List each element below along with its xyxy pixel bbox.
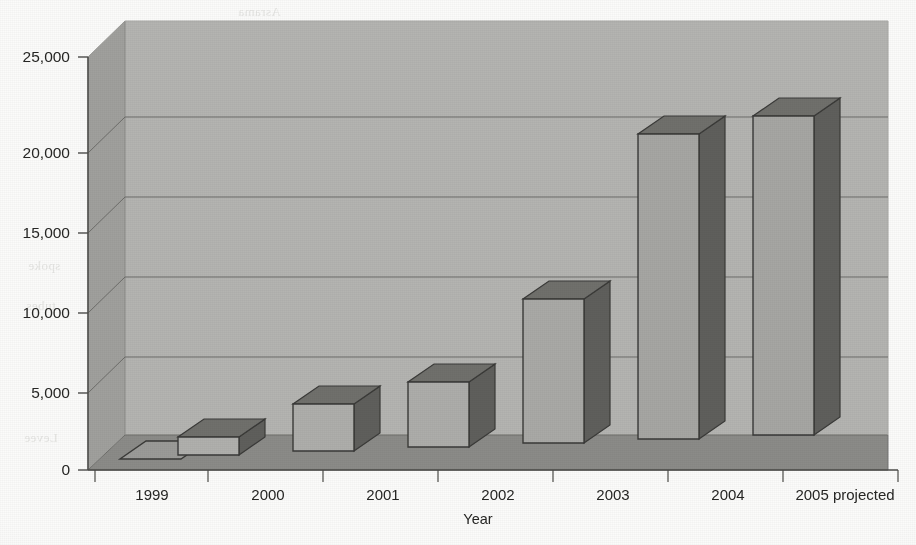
bar-2004-front: [638, 134, 699, 439]
bar-2002[interactable]: [408, 364, 495, 447]
y-label-20000: 20,000: [23, 144, 71, 161]
y-label-0: 0: [61, 461, 70, 478]
plot-side-wall: [88, 21, 125, 470]
x-label-2003: 2003: [596, 486, 629, 503]
x-label-1999: 1999: [135, 486, 168, 503]
chart-canvas: spoke tubes Levee Asrama: [0, 0, 916, 545]
x-label-2002: 2002: [481, 486, 514, 503]
y-label-5000: 5,000: [31, 384, 70, 401]
x-label-2001: 2001: [366, 486, 399, 503]
bar-2004[interactable]: [638, 116, 725, 439]
bar-2002-front: [408, 382, 469, 447]
bar-2005-side: [814, 98, 840, 435]
bar-2003-side: [584, 281, 610, 443]
bar-2000-front: [178, 437, 239, 455]
y-label-10000: 10,000: [23, 304, 71, 321]
x-label-2004: 2004: [711, 486, 744, 503]
bar-2004-side: [699, 116, 725, 439]
y-label-25000: 25,000: [23, 48, 71, 65]
bar-2005-projected[interactable]: [753, 98, 840, 435]
x-axis-title: Year: [463, 511, 492, 527]
x-label-2005-projected: 2005 projected: [795, 486, 894, 503]
bar-2005-front: [753, 116, 814, 435]
bar-2003-front: [523, 299, 584, 443]
bar-2001-front: [293, 404, 354, 451]
bar-2003[interactable]: [523, 281, 610, 443]
bar-chart-graphic: 25,000 20,000 15,000 10,000 5,000 0 1999…: [0, 0, 916, 545]
bar-2001[interactable]: [293, 386, 380, 451]
y-label-15000: 15,000: [23, 224, 71, 241]
x-label-2000: 2000: [251, 486, 284, 503]
